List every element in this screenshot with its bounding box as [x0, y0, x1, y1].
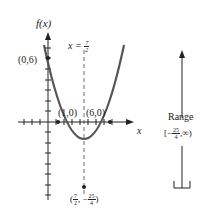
range-arrow-icon — [179, 50, 185, 58]
point-6-0 — [108, 120, 112, 124]
range-title: Range — [168, 112, 194, 122]
point-label-0-6: (0,6) — [18, 55, 37, 65]
x-axis-arrow-icon — [126, 119, 134, 125]
graph — [0, 0, 214, 210]
symmetry-label: x = 72 — [68, 40, 89, 53]
point-0-6 — [46, 56, 50, 60]
y-axis-label: f(x) — [36, 18, 51, 29]
y-axis-arrow-icon — [45, 32, 51, 40]
vertex-label: (72, −254) — [70, 193, 99, 206]
point-label-6-0: (6,0) — [86, 108, 105, 118]
point-label-1-0: (1,0) — [58, 108, 77, 118]
vertex-point — [82, 185, 86, 189]
x-axis-label: x — [137, 126, 141, 136]
range-value: [−254,∞) — [164, 127, 192, 140]
point-1-0 — [56, 120, 60, 124]
